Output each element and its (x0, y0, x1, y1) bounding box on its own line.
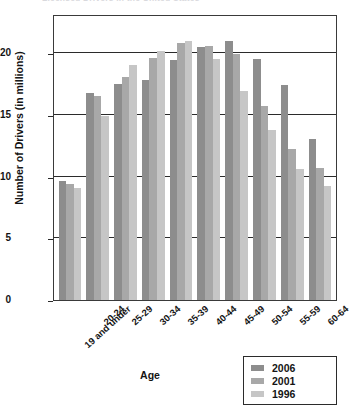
bar-groups (54, 16, 336, 300)
x-tick-label: 35-39 (185, 303, 210, 327)
bar-group (306, 16, 334, 300)
bar-2006-25-29 (114, 84, 122, 300)
x-axis-ticks: 19 and under20-2425-2930-3435-3940-4445-… (53, 301, 337, 361)
bar-1996-55-59 (296, 169, 304, 300)
bar-2001-20-24 (94, 96, 102, 300)
bar-group (56, 16, 84, 300)
bar-group (167, 16, 195, 300)
bar-2001-30-34 (149, 58, 157, 300)
x-tick-label: 45-49 (241, 303, 266, 327)
bar-group (139, 16, 167, 300)
bar-1996-50-54 (268, 130, 276, 300)
y-tick-label: 5 (0, 232, 11, 243)
x-tick-label: 55-59 (297, 303, 322, 327)
bar-2001-45-49 (233, 54, 241, 300)
bar-group (84, 16, 112, 300)
bar-1996-35-39 (185, 41, 193, 300)
legend-item: 1996 (251, 387, 330, 400)
plot-area (53, 15, 337, 301)
y-axis-label: Number of Drivers (in millions) (13, 13, 25, 243)
bar-2006-20-24 (86, 93, 94, 300)
bar-group (223, 16, 251, 300)
bar-2006-30-34 (142, 80, 150, 300)
bar-1996-19-and-under (74, 188, 82, 300)
x-tick-label: 50-54 (269, 303, 294, 327)
x-tick-label: 30-34 (157, 303, 182, 327)
chart-legend: 200620011996 (243, 356, 337, 405)
bar-2006-35-39 (170, 60, 178, 300)
chart-title: Licensed Drivers in the United States (42, 0, 312, 1)
bar-2001-55-59 (288, 149, 296, 300)
bar-2001-19-and-under (66, 184, 74, 300)
chart-figure: Licensed Drivers in the United States Nu… (0, 0, 352, 408)
x-tick-label: 40-44 (213, 303, 238, 327)
legend-label: 2001 (272, 375, 295, 387)
bar-2006-19-and-under (59, 181, 67, 300)
legend-swatch-icon (251, 365, 264, 371)
legend-label: 1996 (272, 388, 295, 400)
bar-group (251, 16, 279, 300)
y-tick-label: 15 (0, 109, 11, 120)
bar-1996-45-49 (240, 91, 248, 300)
bar-2006-60-64 (309, 139, 317, 300)
bar-1996-40-44 (213, 59, 221, 300)
bar-2006-45-49 (225, 41, 233, 300)
bar-1996-25-29 (129, 65, 137, 300)
legend-item: 2001 (251, 374, 330, 387)
bar-1996-30-34 (157, 51, 165, 300)
bar-2001-25-29 (122, 77, 130, 300)
legend-swatch-icon (251, 378, 264, 384)
legend-item: 2006 (251, 361, 330, 374)
bar-group (112, 16, 140, 300)
bar-group (278, 16, 306, 300)
bar-2001-40-44 (205, 46, 213, 300)
bar-2001-60-64 (316, 168, 324, 300)
x-tick-label: 25-29 (129, 303, 154, 327)
bar-2006-40-44 (197, 47, 205, 300)
bar-2006-55-59 (281, 85, 289, 300)
y-tick-label: 10 (0, 171, 11, 182)
bar-2001-50-54 (261, 106, 269, 300)
legend-label: 2006 (272, 362, 295, 374)
bar-2006-50-54 (253, 59, 261, 300)
bar-1996-20-24 (101, 116, 109, 300)
bar-group (195, 16, 223, 300)
bar-1996-60-64 (324, 186, 332, 300)
legend-swatch-icon (251, 391, 264, 397)
y-tick-label: 20 (0, 47, 11, 58)
bar-2001-35-39 (177, 43, 185, 300)
x-tick-label: 60-64 (325, 303, 350, 327)
y-tick-label: 0 (0, 294, 11, 305)
